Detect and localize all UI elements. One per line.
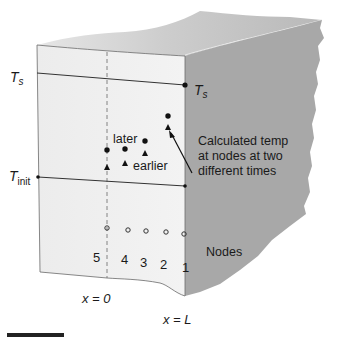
annotation-line-2: at nodes at two xyxy=(198,149,283,163)
node-number-1: 1 xyxy=(182,260,189,275)
node-number-4: 4 xyxy=(121,252,128,267)
ts-surface-point xyxy=(182,82,187,87)
ts-left-label: Ts xyxy=(10,69,24,87)
tinit-label: Tinit xyxy=(9,168,31,187)
later-label: later xyxy=(113,132,137,146)
tinit-left-point xyxy=(36,175,40,179)
later-point-node4 xyxy=(122,146,127,151)
later-point-node2 xyxy=(165,113,170,118)
earlier-label: earlier xyxy=(133,159,168,173)
later-point-node5 xyxy=(104,147,109,152)
nodes-label: Nodes xyxy=(206,245,242,259)
annotation-text: Calculated temp at nodes at two differen… xyxy=(198,134,288,178)
later-point-node3 xyxy=(142,138,147,143)
node-number-2: 2 xyxy=(160,257,167,272)
bottom-rule xyxy=(7,333,64,337)
x0-label: x = 0 xyxy=(81,291,111,306)
annotation-line-1: Calculated temp xyxy=(198,134,288,148)
annotation-line-3: different times xyxy=(198,164,276,178)
node-number-3: 3 xyxy=(140,255,147,270)
node-number-5: 5 xyxy=(93,250,100,265)
xL-label: x = L xyxy=(162,312,192,327)
slab-diagram: Ts Ts Tinit later earlier Calculated tem… xyxy=(0,0,340,337)
tinit-right-point xyxy=(183,184,187,188)
